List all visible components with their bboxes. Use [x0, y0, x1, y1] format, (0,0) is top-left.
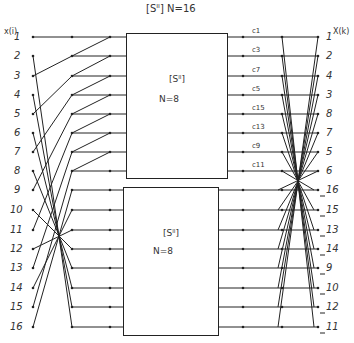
output-label: 1	[326, 32, 332, 42]
s2-block-bottom: [Sᴵᴵ] N=8	[123, 187, 219, 336]
output-label: 2	[326, 51, 332, 61]
input-label: 7	[14, 147, 20, 157]
input-label: 8	[14, 166, 20, 176]
coefficient-label: c5	[252, 85, 260, 93]
block-size: N=8	[119, 94, 219, 104]
input-label: 15	[10, 302, 23, 312]
output-label: 16	[326, 185, 339, 195]
input-label: 9	[14, 185, 20, 195]
coefficient-label: c13	[252, 123, 265, 131]
input-label: 12	[10, 244, 23, 254]
coefficient-label: c7	[252, 66, 260, 74]
input-label: 13	[10, 263, 23, 273]
input-label: 11	[10, 225, 23, 235]
output-label: 9	[326, 263, 332, 273]
input-label: 2	[14, 51, 20, 61]
diagram-title: [Sᴵᴵ] N=16	[146, 3, 196, 14]
coefficient-label: c11	[252, 161, 265, 169]
input-label: 4	[14, 90, 20, 100]
block-size: N=8	[116, 246, 210, 256]
input-label: 3	[14, 71, 20, 81]
coefficient-label: c1	[252, 27, 260, 35]
output-label: 4	[326, 71, 332, 81]
block-label: [Sᴵᴵ]	[124, 228, 218, 238]
input-label: 14	[10, 283, 23, 293]
block-label: [Sᴵᴵ]	[127, 74, 227, 84]
output-header: X(k)	[333, 27, 349, 36]
s2-block-top: [Sᴵᴵ] N=8	[126, 33, 228, 179]
coefficient-label: c9	[252, 142, 260, 150]
output-label: 15	[326, 205, 339, 215]
output-label: 12	[326, 302, 339, 312]
output-label: 10	[326, 283, 339, 293]
input-label: 1	[14, 32, 20, 42]
coefficient-label: c3	[252, 46, 260, 54]
input-label: 16	[10, 322, 23, 332]
output-label: 8	[326, 109, 332, 119]
output-label: 11	[326, 322, 339, 332]
output-label: 7	[326, 128, 332, 138]
coefficient-label: c15	[252, 104, 265, 112]
output-label: 6	[326, 166, 332, 176]
input-label: 10	[10, 205, 23, 215]
output-label: 13	[326, 225, 339, 235]
output-label: 14	[326, 244, 339, 254]
output-label: 3	[326, 90, 332, 100]
input-label: 6	[14, 128, 20, 138]
input-label: 5	[14, 109, 20, 119]
output-label: 5	[326, 147, 332, 157]
